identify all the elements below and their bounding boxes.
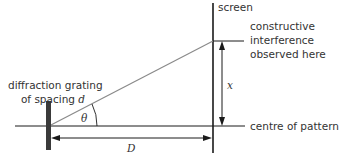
D-label: D	[127, 142, 135, 154]
grating-label-prefix: of spacing	[21, 93, 78, 105]
grating-spacing-symbol: d	[78, 93, 85, 105]
theta-label: θ	[81, 112, 87, 124]
x-label: x	[227, 79, 233, 91]
constructive-label-line3: observed here	[250, 48, 326, 60]
x-arrowhead-down	[219, 117, 225, 126]
screen-label: screen	[218, 1, 253, 13]
constructive-label-line1: constructive	[250, 20, 315, 32]
diffraction-grating	[46, 101, 51, 150]
centre-label: centre of pattern	[250, 120, 339, 132]
theta-arc	[92, 104, 97, 126]
x-arrowhead-up	[219, 41, 225, 50]
grating-label-line2: of spacing d	[8, 93, 98, 105]
grating-label-line1: diffraction grating	[8, 79, 98, 91]
constructive-label-line2: interference	[250, 34, 314, 46]
D-arrowhead-right	[203, 135, 212, 141]
D-arrowhead-left	[51, 135, 60, 141]
